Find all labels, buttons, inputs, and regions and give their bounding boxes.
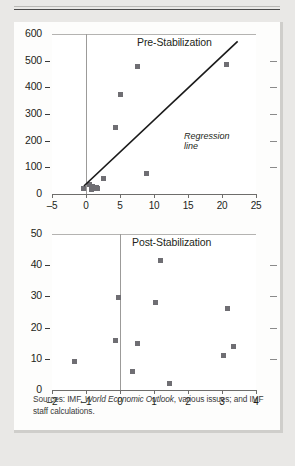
data-point-marker <box>135 341 140 346</box>
data-point-marker <box>72 359 77 364</box>
chart-post-stabilization: 01020304050 –2–101234 Post-Stabilization <box>14 212 280 422</box>
data-point-marker <box>116 295 121 300</box>
y-tick-right <box>270 359 277 360</box>
y-tick-right <box>270 265 277 266</box>
regression-line <box>14 22 280 212</box>
y-tick-right <box>270 296 277 297</box>
regression-line-label: Regression line <box>184 131 230 152</box>
card-shadow-bottom <box>14 430 283 433</box>
y-tick <box>45 359 50 360</box>
data-point-marker <box>167 381 172 386</box>
page-header-band <box>0 0 295 22</box>
zero-reference-line <box>120 234 121 390</box>
figure-page: 0100200300400500600 –50510152025 Pre-Sta… <box>0 0 295 466</box>
data-point-marker <box>153 300 158 305</box>
data-point-marker <box>130 369 135 374</box>
data-point-marker <box>225 306 230 311</box>
data-point-marker <box>221 353 226 358</box>
regression-label-line1: Regression <box>184 131 230 141</box>
data-point-marker <box>113 338 118 343</box>
y-axis-tick-label: 20 <box>14 321 42 333</box>
y-axis-tick-label: 40 <box>14 258 42 270</box>
y-tick <box>45 265 50 266</box>
y-axis-tick-label: 30 <box>14 289 42 301</box>
regression-label-line2: line <box>184 141 198 151</box>
panel-title-post: Post-Stabilization <box>132 236 211 248</box>
header-rule <box>14 9 280 10</box>
data-point-marker <box>231 344 236 349</box>
regression-line-stroke <box>84 41 238 186</box>
y-axis-tick-label: 10 <box>14 352 42 364</box>
panel-title-pre: Pre-Stabilization <box>137 36 212 48</box>
y-tick <box>45 328 50 329</box>
source-prefix: Sources: IMF, <box>33 394 85 404</box>
plot-area-post <box>52 234 256 390</box>
y-axis-tick-label: 50 <box>14 227 42 239</box>
data-point-marker <box>158 258 163 263</box>
y-tick-right <box>270 328 277 329</box>
source-note: Sources: IMF, World Economic Outlook, va… <box>33 394 265 418</box>
y-tick <box>45 296 50 297</box>
chart-pre-stabilization: 0100200300400500600 –50510152025 Pre-Sta… <box>14 22 280 212</box>
header-hairline <box>14 6 280 7</box>
gridline-top <box>52 234 256 235</box>
card-shadow-right <box>280 22 283 430</box>
source-publication-title: World Economic Outlook <box>85 394 174 404</box>
figure-card: 0100200300400500600 –50510152025 Pre-Sta… <box>14 22 280 430</box>
